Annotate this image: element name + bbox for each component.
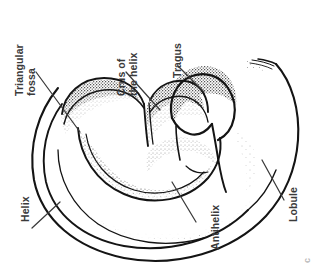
label-crus-of-the-helix-text: Crus of the helix (115, 53, 139, 97)
ear-illustration (0, 0, 319, 275)
label-tragus: Tragus (172, 43, 184, 78)
label-helix-text: Helix (19, 196, 31, 222)
label-crus-of-the-helix: Crus of the helix (116, 53, 139, 97)
figure-mark: c (302, 258, 312, 263)
ear-anatomy-figure: Triangular fossa Crus of the helix Tragu… (0, 0, 319, 275)
label-antihelix: Antihelix (210, 205, 222, 250)
label-triangular-fossa: Triangular fossa (14, 44, 37, 96)
label-antihelix-text: Antihelix (209, 205, 221, 250)
label-tragus-text: Tragus (171, 43, 183, 78)
label-lobule-text: Lobule (287, 187, 299, 222)
label-lobule: Lobule (288, 187, 300, 222)
label-helix: Helix (20, 196, 32, 222)
label-triangular-fossa-text: Triangular fossa (13, 44, 37, 96)
